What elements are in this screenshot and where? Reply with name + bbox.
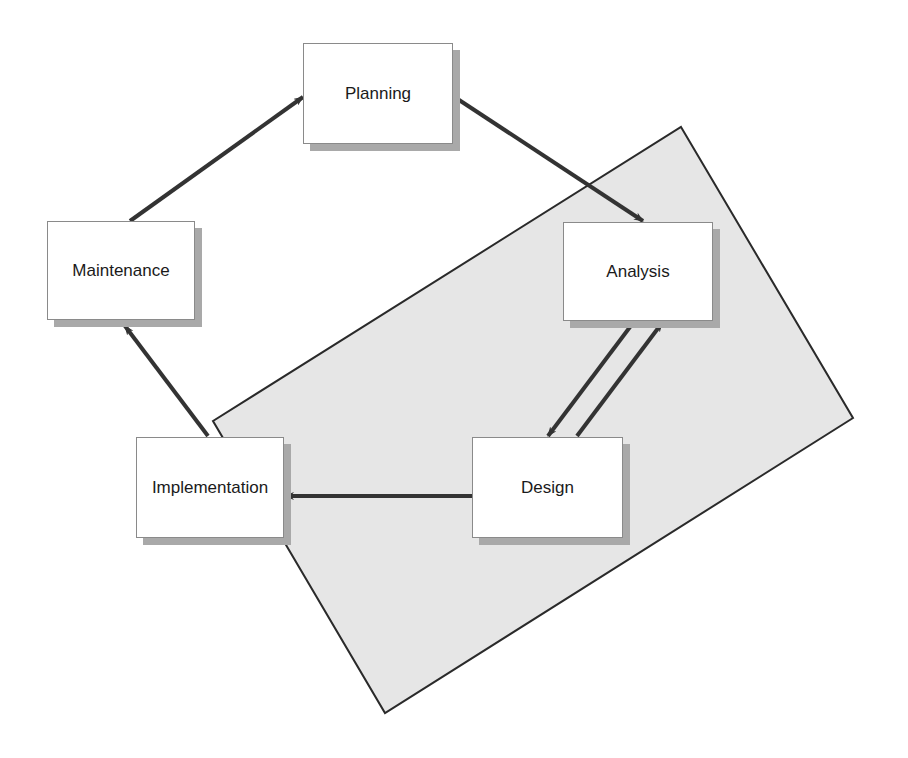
arrow-planning-to-analysis <box>453 96 643 221</box>
arrow-maintenance-to-planning <box>130 97 303 221</box>
node-planning[interactable]: Planning <box>303 43 453 144</box>
node-label: Planning <box>345 84 411 104</box>
node-maintenance[interactable]: Maintenance <box>47 221 195 320</box>
node-label: Design <box>521 478 574 498</box>
node-label: Analysis <box>606 262 669 282</box>
arrow-implementation-to-maintenance <box>125 326 208 436</box>
node-implementation[interactable]: Implementation <box>136 437 284 538</box>
node-analysis[interactable]: Analysis <box>563 222 713 321</box>
node-label: Maintenance <box>72 261 169 281</box>
node-design[interactable]: Design <box>472 437 623 538</box>
highlighted-region <box>213 127 853 713</box>
node-label: Implementation <box>152 478 268 498</box>
